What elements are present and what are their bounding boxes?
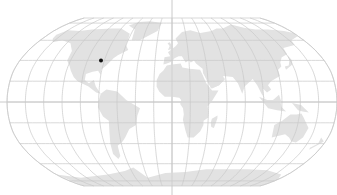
landmass-australia [272,114,309,143]
world-map[interactable] [0,0,337,195]
marker-layer [99,58,103,62]
location-marker[interactable] [99,58,103,62]
landmass-greenland [129,21,162,40]
landmass-layer [53,21,324,186]
landmass-south-america [98,90,140,159]
landmass-madagascar [211,116,218,129]
landmass-north-america [53,29,130,94]
